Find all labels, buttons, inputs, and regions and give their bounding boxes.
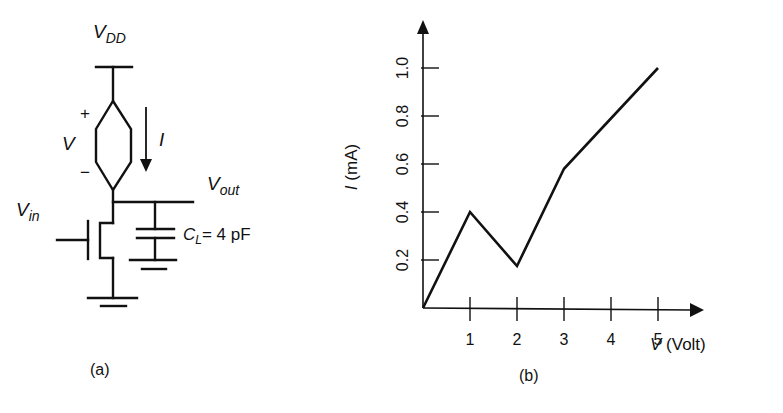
figure: VDD + − V I Vout Vin CL= 4 pF (a) 123450…	[0, 0, 783, 413]
x-tick-label: 1	[466, 331, 475, 348]
nmos-channel	[100, 223, 113, 258]
x-axis-label: V (Volt)	[650, 335, 706, 354]
x-tick-label: 2	[513, 331, 522, 348]
current-arrow-head-icon	[140, 159, 152, 172]
nonlinear-element-symbol	[96, 101, 131, 190]
y-tick-label: 0.4	[394, 201, 411, 223]
x-tick-label: 4	[607, 331, 616, 348]
y-tick-label: 1.0	[394, 57, 411, 79]
y-tick-label: 0.6	[394, 153, 411, 175]
circuit-diagram	[57, 67, 193, 306]
x-tick-label: 3	[560, 331, 569, 348]
plus-label: +	[80, 104, 90, 123]
cl-label: CL= 4 pF	[183, 225, 251, 247]
minus-label: −	[80, 163, 90, 182]
caption-b: (b)	[519, 367, 539, 384]
vdd-label: VDD	[93, 21, 126, 46]
x-axis-arrow-icon	[690, 303, 704, 317]
iv-chart: 123450.20.40.60.81.0V (Volt)I (mA)	[342, 20, 706, 354]
figure-canvas: VDD + − V I Vout Vin CL= 4 pF (a) 123450…	[0, 0, 783, 413]
x-axis	[423, 308, 692, 310]
vin-label: Vin	[16, 199, 40, 224]
vout-label: Vout	[207, 173, 240, 198]
y-tick-label: 0.8	[394, 105, 411, 127]
current-i-label: I	[159, 129, 165, 150]
voltage-v-label: V	[62, 133, 77, 154]
y-axis-arrow-icon	[417, 20, 429, 34]
iv-curve-line	[423, 68, 658, 308]
y-axis-label: I (mA)	[342, 144, 361, 190]
y-tick-label: 0.2	[394, 249, 411, 271]
caption-a: (a)	[90, 361, 110, 378]
